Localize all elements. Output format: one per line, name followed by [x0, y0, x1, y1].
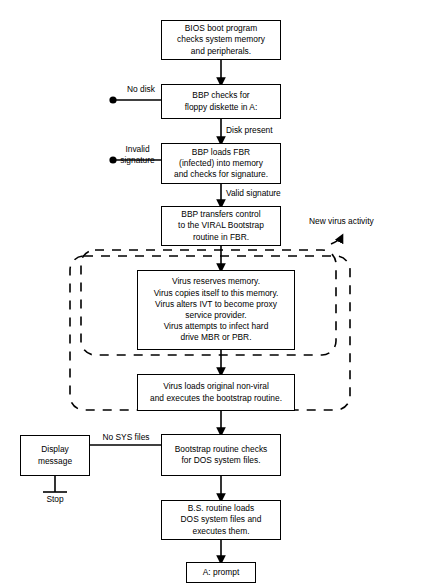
edge-label-new-virus-activity: New virus activity	[309, 216, 419, 227]
node-display-message: Display message	[20, 435, 90, 476]
node-bios-boot-program: BIOS boot program checks system memory a…	[161, 20, 281, 60]
edge-label-no-sys-files: No SYS files	[94, 432, 158, 443]
edge-label-disk-present: Disk present	[226, 125, 294, 136]
node-bbp-transfers-control: BBP transfers control to the VIRAL Boots…	[161, 206, 281, 246]
terminator-dot-no-disk	[109, 96, 116, 103]
edge-label-valid-signature: Valid signature	[226, 188, 304, 199]
node-a-prompt: A: prompt	[186, 562, 256, 583]
edge-label-stop: Stop	[33, 494, 77, 505]
node-bbp-checks-floppy: BBP checks for floppy diskette in A:	[161, 84, 281, 119]
edge-label-invalid-signature: Invalid signature	[114, 144, 161, 165]
node-bbp-loads-fbr: BBP loads FBR (infected) into memory and…	[161, 143, 281, 184]
node-bootstrap-routine-checks: Bootstrap routine checks for DOS system …	[161, 434, 281, 476]
node-bs-routine-loads: B.S. routine loads DOS system files and …	[161, 500, 281, 540]
edge-label-no-disk: No disk	[118, 84, 164, 95]
node-virus-loads-original: Virus loads original non-viral and execu…	[137, 374, 295, 411]
node-virus-reserves-memory: Virus reserves memory. Virus copies itse…	[137, 270, 295, 350]
new-virus-activity-pointer	[331, 236, 342, 244]
flowchart-canvas: BIOS boot program checks system memory a…	[0, 0, 424, 588]
